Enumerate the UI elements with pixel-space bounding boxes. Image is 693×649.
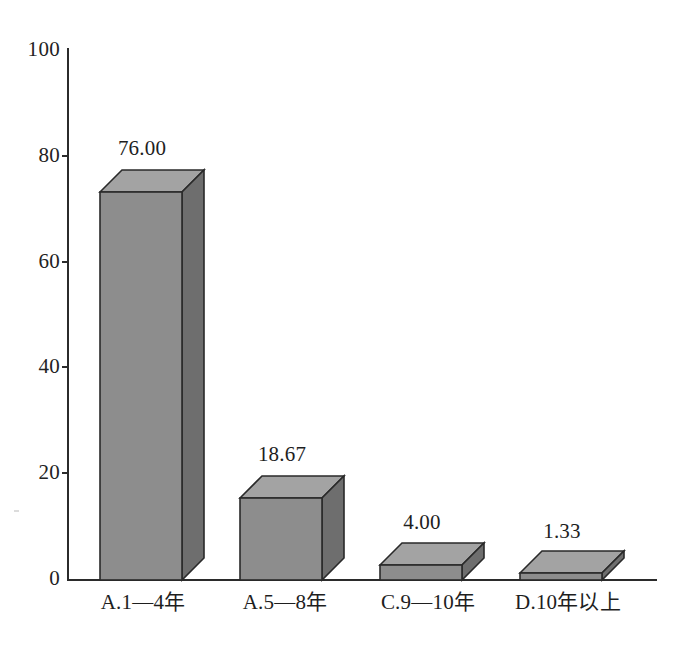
scan-speck: [14, 510, 19, 512]
y-tick-mark-60: [62, 261, 68, 263]
y-tick-mark-20: [62, 472, 68, 474]
x-category-label-2: A.5—8年: [222, 590, 348, 614]
bar-value-label-1: 76.00: [92, 138, 192, 159]
bar-column-3: [380, 543, 462, 580]
bar-column-2: [240, 476, 322, 580]
y-tick-label-0: 0: [0, 568, 60, 589]
bar-column-1: [100, 170, 182, 580]
x-category-label-4: D.10年以上: [500, 590, 636, 614]
x-category-label-3: C.9—10年: [360, 590, 496, 614]
figure-caption: [0, 634, 693, 649]
bar-column-4: [520, 551, 602, 580]
y-axis-line: [67, 48, 69, 581]
y-tick-mark-40: [62, 366, 68, 368]
y-tick-label-100: 100: [0, 39, 60, 60]
bar-chart-figure: 100 80 60 40 20 0 76.00: [0, 0, 693, 649]
bar-3d-shape-1: [100, 170, 212, 610]
y-tick-mark-80: [62, 155, 68, 157]
bar-value-label-4: 1.33: [512, 521, 612, 542]
y-tick-label-20: 20: [0, 462, 60, 483]
x-category-label-1: A.1—4年: [80, 590, 206, 614]
y-tick-label-40: 40: [0, 356, 60, 377]
bar-value-label-2: 18.67: [232, 444, 332, 465]
y-tick-label-60: 60: [0, 251, 60, 272]
bar-value-label-3: 4.00: [372, 512, 472, 533]
y-tick-label-80: 80: [0, 145, 60, 166]
